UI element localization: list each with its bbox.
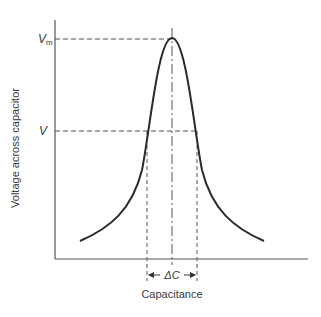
delta-c-label: ΔC	[163, 269, 179, 281]
arrowhead-left-icon	[148, 272, 154, 278]
y-axis-label: Voltage across capacitor	[9, 88, 21, 208]
resonance-diagram: ΔC Capacitance Vm V Voltage across capac…	[0, 0, 321, 317]
vm-label: Vm	[38, 32, 53, 47]
x-axis-label: Capacitance	[141, 288, 202, 300]
arrowhead-right-icon	[190, 272, 196, 278]
vm-label-sub: m	[46, 38, 53, 47]
v-label: V	[39, 124, 48, 138]
